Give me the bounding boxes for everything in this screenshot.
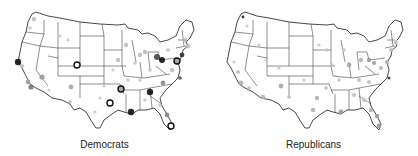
state-border xyxy=(267,22,289,48)
state-border xyxy=(267,76,289,98)
city-marker xyxy=(111,68,114,71)
city-marker xyxy=(377,124,382,129)
city-marker xyxy=(126,78,130,82)
state-border xyxy=(313,84,333,94)
city-marker xyxy=(154,54,160,60)
democrats-us-map xyxy=(0,0,209,140)
city-marker xyxy=(118,86,124,92)
state-border xyxy=(122,90,140,110)
city-marker xyxy=(245,24,248,27)
city-marker xyxy=(68,100,72,104)
city-marker xyxy=(138,78,142,82)
us-outline xyxy=(227,12,403,130)
state-border xyxy=(122,30,124,76)
state-border xyxy=(36,46,40,70)
city-marker xyxy=(32,17,36,21)
state-border xyxy=(176,46,186,48)
state-border xyxy=(48,56,58,76)
state-border xyxy=(249,20,253,46)
city-marker xyxy=(124,43,128,47)
city-marker xyxy=(107,100,113,106)
city-marker xyxy=(74,62,80,68)
city-marker xyxy=(166,48,170,52)
city-marker xyxy=(69,85,74,90)
city-marker xyxy=(98,96,101,99)
state-border xyxy=(333,76,353,78)
state-border xyxy=(124,76,144,78)
city-marker xyxy=(387,76,390,79)
city-marker xyxy=(148,68,152,72)
city-marker xyxy=(357,78,361,82)
state-border xyxy=(140,62,142,78)
state-border xyxy=(331,90,349,110)
state-border xyxy=(235,32,253,34)
city-marker xyxy=(257,43,260,46)
city-marker xyxy=(143,50,147,54)
state-border xyxy=(311,24,313,76)
city-marker xyxy=(277,66,280,69)
city-marker xyxy=(389,48,393,52)
state-border xyxy=(353,74,379,78)
state-border xyxy=(245,70,257,86)
city-marker xyxy=(315,96,319,100)
city-marker xyxy=(28,84,33,89)
city-marker xyxy=(15,59,21,65)
city-marker xyxy=(93,110,96,113)
city-marker xyxy=(337,78,341,82)
state-border xyxy=(102,24,104,76)
city-marker xyxy=(362,98,366,102)
state-border xyxy=(58,22,80,48)
state-border xyxy=(40,20,44,46)
city-marker xyxy=(367,58,371,62)
city-marker xyxy=(138,53,142,57)
state-border xyxy=(365,66,375,74)
state-border xyxy=(349,88,361,108)
state-border xyxy=(182,30,184,46)
city-marker xyxy=(143,98,147,102)
city-marker xyxy=(311,108,315,112)
city-marker xyxy=(147,89,153,95)
city-marker xyxy=(236,70,240,74)
city-marker xyxy=(133,61,137,65)
city-marker xyxy=(39,74,44,79)
city-marker xyxy=(347,63,352,68)
city-marker xyxy=(242,16,245,19)
city-marker xyxy=(342,48,346,52)
city-marker xyxy=(128,109,134,115)
state-border xyxy=(289,76,313,84)
city-marker xyxy=(375,114,379,118)
city-marker xyxy=(58,34,61,37)
city-marker xyxy=(232,60,235,63)
state-border xyxy=(148,52,150,70)
city-marker xyxy=(317,43,320,46)
city-marker xyxy=(385,60,389,64)
state-border xyxy=(331,30,333,76)
state-border xyxy=(245,46,249,70)
city-marker xyxy=(287,95,291,99)
city-marker xyxy=(26,80,31,85)
state-border xyxy=(391,30,393,46)
city-marker xyxy=(158,103,162,107)
city-marker xyxy=(66,38,69,41)
city-marker xyxy=(264,58,267,61)
city-marker xyxy=(180,53,185,58)
city-marker xyxy=(330,63,334,67)
city-marker xyxy=(47,88,50,91)
city-marker xyxy=(247,86,251,90)
republicans-caption: Republicans xyxy=(209,139,418,150)
democrats-caption: Democrats xyxy=(0,139,209,150)
city-marker xyxy=(186,44,190,48)
republicans-us-map xyxy=(209,0,418,140)
city-marker xyxy=(183,38,187,42)
city-marker xyxy=(178,76,182,80)
city-marker xyxy=(261,95,265,99)
state-border xyxy=(144,74,170,78)
state-border xyxy=(357,52,359,70)
state-border xyxy=(80,76,104,84)
state-border xyxy=(132,40,136,62)
us-outline xyxy=(18,12,194,130)
state-border xyxy=(369,58,385,60)
city-marker xyxy=(369,108,373,112)
state-border xyxy=(385,46,395,48)
city-marker xyxy=(302,78,305,81)
